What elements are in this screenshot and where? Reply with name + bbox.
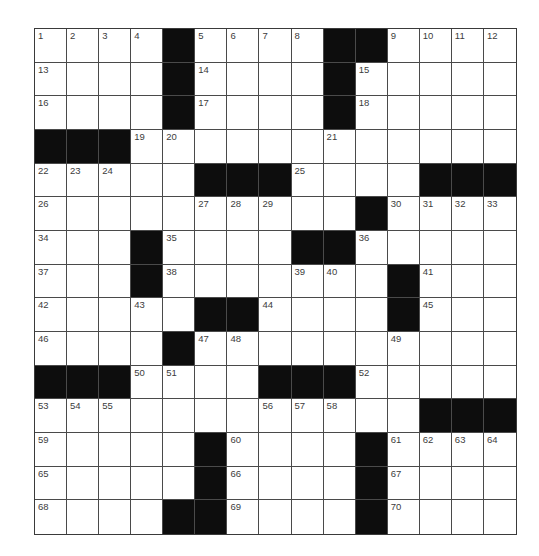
grid-cell-r5-c2[interactable]: 23 xyxy=(67,164,99,198)
grid-cell-r5-c10[interactable] xyxy=(324,164,356,198)
grid-cell-r10-c15[interactable] xyxy=(484,332,516,366)
grid-cell-r6-c2[interactable] xyxy=(67,197,99,231)
grid-cell-r6-c5[interactable] xyxy=(163,197,195,231)
grid-cell-r10-c13[interactable] xyxy=(420,332,452,366)
grid-cell-r11-c15[interactable] xyxy=(484,366,516,400)
grid-cell-r14-c3[interactable] xyxy=(99,467,131,501)
grid-cell-r7-c1[interactable]: 34 xyxy=(35,231,67,265)
grid-cell-r14-c5[interactable] xyxy=(163,467,195,501)
grid-cell-r13-c14[interactable]: 63 xyxy=(452,433,484,467)
grid-cell-r6-c6[interactable]: 27 xyxy=(195,197,227,231)
grid-cell-r1-c8[interactable]: 7 xyxy=(259,29,291,63)
grid-cell-r6-c8[interactable]: 29 xyxy=(259,197,291,231)
grid-cell-r13-c13[interactable]: 62 xyxy=(420,433,452,467)
grid-cell-r8-c14[interactable] xyxy=(452,265,484,299)
grid-cell-r15-c15[interactable] xyxy=(484,500,516,534)
grid-cell-r15-c8[interactable] xyxy=(259,500,291,534)
grid-cell-r7-c13[interactable] xyxy=(420,231,452,265)
grid-cell-r7-c2[interactable] xyxy=(67,231,99,265)
grid-cell-r4-c12[interactable] xyxy=(388,130,420,164)
grid-cell-r10-c12[interactable]: 49 xyxy=(388,332,420,366)
grid-cell-r2-c3[interactable] xyxy=(99,63,131,97)
grid-cell-r11-c13[interactable] xyxy=(420,366,452,400)
grid-cell-r13-c10[interactable] xyxy=(324,433,356,467)
grid-cell-r13-c1[interactable]: 59 xyxy=(35,433,67,467)
grid-cell-r12-c5[interactable] xyxy=(163,399,195,433)
grid-cell-r9-c3[interactable] xyxy=(99,298,131,332)
grid-cell-r2-c9[interactable] xyxy=(292,63,324,97)
grid-cell-r6-c9[interactable] xyxy=(292,197,324,231)
grid-cell-r10-c14[interactable] xyxy=(452,332,484,366)
grid-cell-r5-c1[interactable]: 22 xyxy=(35,164,67,198)
grid-cell-r15-c14[interactable] xyxy=(452,500,484,534)
grid-cell-r3-c4[interactable] xyxy=(131,96,163,130)
grid-cell-r2-c7[interactable] xyxy=(227,63,259,97)
grid-cell-r11-c14[interactable] xyxy=(452,366,484,400)
grid-cell-r8-c5[interactable]: 38 xyxy=(163,265,195,299)
grid-cell-r14-c9[interactable] xyxy=(292,467,324,501)
grid-cell-r3-c12[interactable] xyxy=(388,96,420,130)
grid-cell-r2-c13[interactable] xyxy=(420,63,452,97)
grid-cell-r9-c9[interactable] xyxy=(292,298,324,332)
grid-cell-r3-c1[interactable]: 16 xyxy=(35,96,67,130)
grid-cell-r1-c1[interactable]: 1 xyxy=(35,29,67,63)
grid-cell-r11-c6[interactable] xyxy=(195,366,227,400)
grid-cell-r5-c11[interactable] xyxy=(356,164,388,198)
grid-cell-r14-c4[interactable] xyxy=(131,467,163,501)
grid-cell-r10-c1[interactable]: 46 xyxy=(35,332,67,366)
grid-cell-r3-c15[interactable] xyxy=(484,96,516,130)
grid-cell-r15-c2[interactable] xyxy=(67,500,99,534)
grid-cell-r12-c1[interactable]: 53 xyxy=(35,399,67,433)
grid-cell-r13-c3[interactable] xyxy=(99,433,131,467)
grid-cell-r3-c8[interactable] xyxy=(259,96,291,130)
grid-cell-r2-c1[interactable]: 13 xyxy=(35,63,67,97)
grid-cell-r2-c6[interactable]: 14 xyxy=(195,63,227,97)
grid-cell-r3-c6[interactable]: 17 xyxy=(195,96,227,130)
grid-cell-r10-c3[interactable] xyxy=(99,332,131,366)
grid-cell-r5-c9[interactable]: 25 xyxy=(292,164,324,198)
grid-cell-r4-c5[interactable]: 20 xyxy=(163,130,195,164)
grid-cell-r15-c3[interactable] xyxy=(99,500,131,534)
grid-cell-r4-c6[interactable] xyxy=(195,130,227,164)
grid-cell-r8-c7[interactable] xyxy=(227,265,259,299)
grid-cell-r3-c11[interactable]: 18 xyxy=(356,96,388,130)
grid-cell-r3-c14[interactable] xyxy=(452,96,484,130)
grid-cell-r4-c10[interactable]: 21 xyxy=(324,130,356,164)
grid-cell-r8-c9[interactable]: 39 xyxy=(292,265,324,299)
grid-cell-r3-c7[interactable] xyxy=(227,96,259,130)
grid-cell-r15-c7[interactable]: 69 xyxy=(227,500,259,534)
grid-cell-r2-c2[interactable] xyxy=(67,63,99,97)
grid-cell-r14-c1[interactable]: 65 xyxy=(35,467,67,501)
grid-cell-r14-c14[interactable] xyxy=(452,467,484,501)
grid-cell-r1-c13[interactable]: 10 xyxy=(420,29,452,63)
grid-cell-r6-c7[interactable]: 28 xyxy=(227,197,259,231)
grid-cell-r7-c3[interactable] xyxy=(99,231,131,265)
grid-cell-r2-c4[interactable] xyxy=(131,63,163,97)
grid-cell-r10-c7[interactable]: 48 xyxy=(227,332,259,366)
grid-cell-r8-c8[interactable] xyxy=(259,265,291,299)
grid-cell-r12-c10[interactable]: 58 xyxy=(324,399,356,433)
grid-cell-r7-c11[interactable]: 36 xyxy=(356,231,388,265)
grid-cell-r4-c8[interactable] xyxy=(259,130,291,164)
grid-cell-r8-c2[interactable] xyxy=(67,265,99,299)
grid-cell-r10-c8[interactable] xyxy=(259,332,291,366)
grid-cell-r15-c4[interactable] xyxy=(131,500,163,534)
grid-cell-r1-c2[interactable]: 2 xyxy=(67,29,99,63)
grid-cell-r4-c4[interactable]: 19 xyxy=(131,130,163,164)
grid-cell-r9-c2[interactable] xyxy=(67,298,99,332)
grid-cell-r10-c11[interactable] xyxy=(356,332,388,366)
grid-cell-r6-c12[interactable]: 30 xyxy=(388,197,420,231)
grid-cell-r15-c12[interactable]: 70 xyxy=(388,500,420,534)
grid-cell-r6-c13[interactable]: 31 xyxy=(420,197,452,231)
grid-cell-r9-c13[interactable]: 45 xyxy=(420,298,452,332)
grid-cell-r6-c10[interactable] xyxy=(324,197,356,231)
grid-cell-r12-c4[interactable] xyxy=(131,399,163,433)
grid-cell-r9-c4[interactable]: 43 xyxy=(131,298,163,332)
grid-cell-r14-c10[interactable] xyxy=(324,467,356,501)
grid-cell-r13-c12[interactable]: 61 xyxy=(388,433,420,467)
grid-cell-r7-c6[interactable] xyxy=(195,231,227,265)
grid-cell-r11-c4[interactable]: 50 xyxy=(131,366,163,400)
grid-cell-r13-c8[interactable] xyxy=(259,433,291,467)
grid-cell-r1-c6[interactable]: 5 xyxy=(195,29,227,63)
grid-cell-r14-c2[interactable] xyxy=(67,467,99,501)
